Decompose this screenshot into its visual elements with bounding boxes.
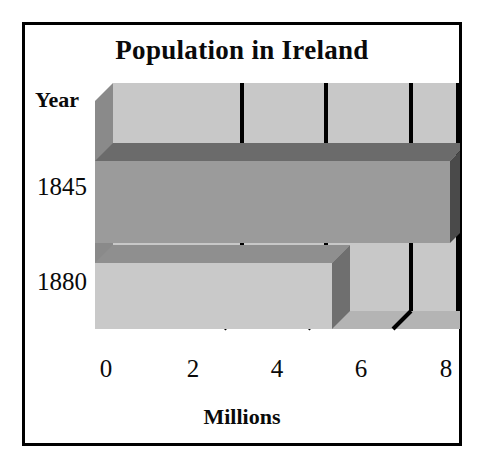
bar-1880-top — [95, 245, 350, 263]
x-axis-title: Millions — [25, 404, 459, 430]
bar-1845 — [95, 143, 460, 243]
chart-title: Population in Ireland — [25, 35, 459, 66]
x-tick-label-8: 8 — [431, 355, 461, 383]
x-tick-label-0: 0 — [91, 355, 121, 383]
x-tick-label-6: 6 — [346, 355, 376, 383]
x-tick-label-2: 2 — [178, 355, 208, 383]
plot-area-3d — [95, 83, 460, 348]
y-axis-title: Year — [35, 87, 79, 113]
x-tick-label-4: 4 — [262, 355, 292, 383]
chart-figure: Population in Ireland Year 1845 1880 0 2… — [22, 22, 462, 446]
bar-1845-top — [95, 143, 460, 161]
bar-1845-front — [95, 161, 450, 243]
bar-1880 — [95, 245, 350, 329]
bar-1880-front — [95, 263, 332, 329]
